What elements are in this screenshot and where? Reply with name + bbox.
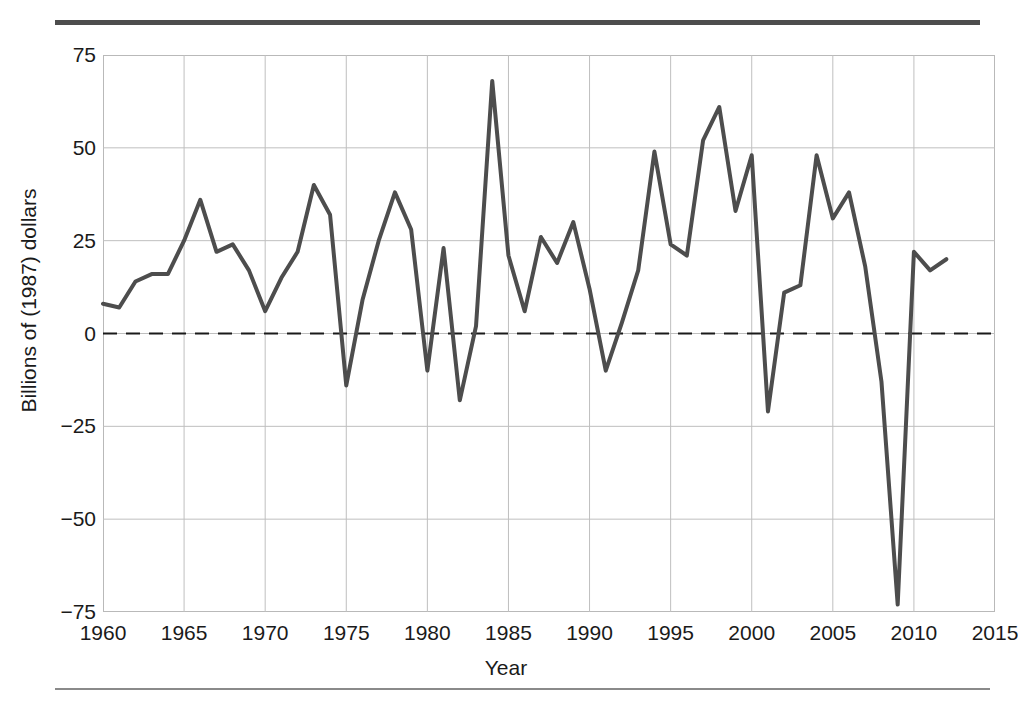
x-axis-tick-labels: 1960196519701975198019851990199520002005…: [0, 622, 1012, 650]
y-tick-label: −25: [52, 415, 96, 436]
x-tick-label: 1985: [485, 622, 532, 643]
y-tick-label: 0: [52, 323, 96, 344]
top-rule-divider: [55, 20, 980, 25]
y-axis-tick-labels: −75−50−250255075: [44, 0, 96, 702]
x-tick-label: 1965: [161, 622, 208, 643]
x-tick-label: 1980: [404, 622, 451, 643]
x-tick-label: 1975: [323, 622, 370, 643]
x-axis-title: Year: [0, 657, 1012, 678]
y-tick-label: 75: [52, 44, 96, 65]
x-tick-label: 2000: [728, 622, 775, 643]
x-tick-label: 1970: [242, 622, 289, 643]
y-tick-label: −75: [52, 601, 96, 622]
x-tick-label: 1960: [80, 622, 127, 643]
x-tick-label: 2010: [891, 622, 938, 643]
data-series-line: [103, 81, 946, 605]
y-tick-label: 25: [52, 230, 96, 251]
x-tick-label: 1995: [647, 622, 694, 643]
y-tick-label: −50: [52, 508, 96, 529]
y-axis-title: Billions of (1987) dollars: [18, 131, 39, 471]
x-tick-label: 2005: [809, 622, 856, 643]
x-tick-label: 2015: [972, 622, 1018, 643]
x-tick-label: 1990: [566, 622, 613, 643]
bottom-rule-divider: [55, 688, 990, 690]
plot-area: [103, 55, 995, 612]
y-tick-label: 50: [52, 137, 96, 158]
